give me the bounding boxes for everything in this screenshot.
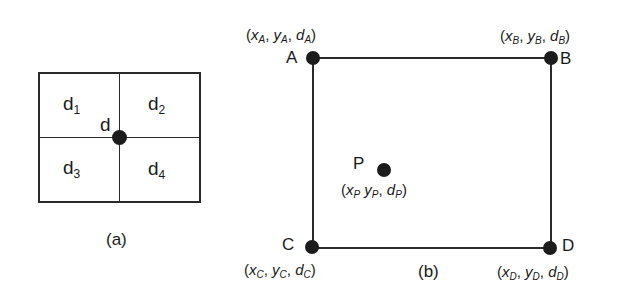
center-label-d: d (100, 115, 111, 134)
cell-label-d3: d3 (63, 158, 80, 180)
cell-label-d2: d2 (148, 94, 165, 116)
coords-d: (xD, yD, dD) (497, 264, 569, 282)
caption-a: (a) (106, 231, 127, 248)
caption-b: (b) (418, 263, 439, 280)
coords-b: (xB, yB, dB) (500, 28, 570, 46)
coords-a: (xA, yA, dA) (246, 27, 316, 45)
center-point (112, 130, 127, 145)
point-d (543, 241, 557, 255)
label-d: D (562, 237, 574, 254)
coords-c: (xC, yC, dC) (244, 262, 316, 280)
label-c: C (282, 236, 294, 253)
label-p: P (353, 155, 364, 172)
point-c (305, 240, 319, 254)
point-b (544, 51, 558, 65)
edge-bd (550, 57, 552, 248)
point-a (306, 51, 320, 65)
cell-label-d4: d4 (148, 159, 165, 181)
label-b: B (560, 50, 571, 67)
edge-ac (312, 57, 314, 248)
coords-p: (xP yP, dP) (341, 182, 407, 200)
edge-cd (312, 247, 550, 249)
point-p (377, 163, 391, 177)
edge-ab (313, 57, 551, 59)
label-a: A (286, 49, 297, 66)
cell-label-d1: d1 (63, 94, 80, 116)
